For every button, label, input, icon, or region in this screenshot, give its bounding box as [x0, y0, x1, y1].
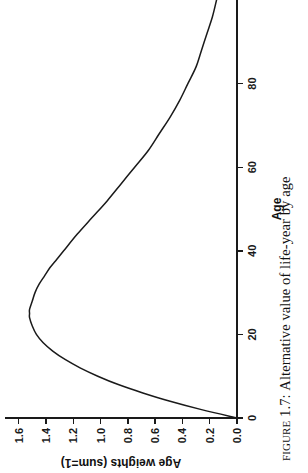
x-axis-ticks: 020406080 [237, 77, 258, 421]
x-tick-label: 80 [246, 77, 258, 89]
figure-container: 020406080 0.00.20.40.60.81.01.21.41.6 Ag… [0, 0, 308, 473]
caption-figure-word: Figure [277, 421, 293, 461]
y-tick-label: 0.6 [149, 428, 161, 443]
y-tick-label: 1.6 [13, 428, 25, 443]
y-tick-label: 0.4 [176, 427, 188, 443]
x-tick-label: 40 [246, 245, 258, 257]
y-tick-label: 0.0 [231, 428, 243, 443]
age-weights-line-chart: 020406080 0.00.20.40.60.81.01.21.41.6 Ag… [0, 0, 290, 473]
x-tick-label: 0 [246, 415, 258, 421]
rotated-plot-wrapper: 020406080 0.00.20.40.60.81.01.21.41.6 Ag… [0, 0, 290, 473]
y-tick-label: 0.2 [204, 428, 216, 443]
y-tick-label: 0.8 [122, 428, 134, 443]
y-tick-label: 1.4 [40, 427, 52, 443]
caption-figure-text: Alternative value of life-year by age [277, 176, 293, 390]
y-axis-ticks: 0.00.20.40.60.81.01.21.41.6 [13, 418, 243, 443]
y-axis-title: Age weights (sum=1) [61, 456, 181, 470]
caption-figure-number: 1.7: [277, 394, 293, 417]
x-tick-label: 60 [246, 161, 258, 173]
figure-caption: Figure 1.7: Alternative value of life-ye… [262, 0, 308, 473]
age-weight-curve [29, 0, 237, 418]
caption-line: Figure 1.7: Alternative value of life-ye… [277, 176, 294, 461]
x-tick-label: 20 [246, 328, 258, 340]
y-tick-label: 1.2 [67, 428, 79, 443]
y-tick-label: 1.0 [95, 428, 107, 443]
